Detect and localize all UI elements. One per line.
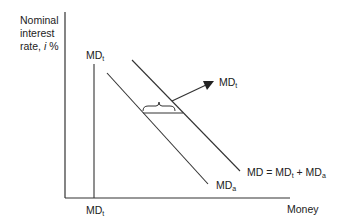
mdt-arrow-label: MDt	[219, 76, 237, 92]
label-sub: t	[102, 210, 104, 217]
label-mid: + MD	[294, 166, 322, 178]
y-axis-label: Nominal interest rate, i %	[20, 14, 80, 53]
y-label-unit: %	[46, 40, 58, 52]
mda-curve	[107, 73, 208, 184]
x-axis-label: Money	[287, 203, 319, 215]
mda-label: MDa	[216, 179, 236, 195]
mdt-axis-label: MDt	[86, 204, 104, 220]
brace-icon	[143, 102, 175, 111]
label-base: MD	[216, 179, 232, 191]
label-prefix: MD = MD	[247, 166, 292, 178]
y-label-line3: rate, i %	[20, 40, 80, 53]
label-base: MD	[219, 76, 235, 88]
label-base: MD	[86, 204, 102, 216]
label-sub: a	[232, 185, 236, 192]
mdt-top-label: MDt	[86, 49, 104, 65]
label-sub: t	[102, 55, 104, 62]
y-label-line1: Nominal	[20, 14, 80, 27]
md-sum-label: MD = MDt + MDa	[247, 166, 326, 182]
label-base: MD	[86, 49, 102, 61]
y-label-prefix: rate,	[20, 40, 44, 52]
arrow-shaft	[172, 85, 206, 101]
label-sub2: a	[322, 172, 326, 179]
y-label-line2: interest	[20, 27, 80, 40]
label-sub: t	[235, 82, 237, 89]
